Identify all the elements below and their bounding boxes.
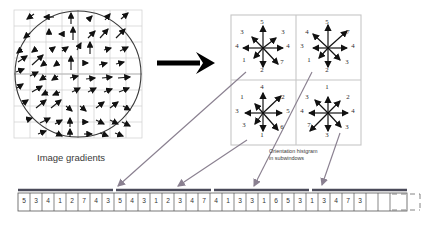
hist-bin-top-left-down: 2 <box>258 66 266 73</box>
subwindow-star-top-right <box>313 25 347 67</box>
strip-cell: 3 <box>318 197 330 204</box>
hist-bin-top-left-up: 5 <box>258 18 266 25</box>
hist-bin-bottom-right-down-left: 7 <box>305 121 313 128</box>
sift-descriptor-figure <box>0 0 422 226</box>
orientation-histogram-label: Orientation histgram in subwindows <box>269 148 318 162</box>
hist-bin-top-right-up-left: 4 <box>303 28 311 35</box>
subwindow-grid <box>231 15 361 145</box>
hist-bin-top-right-down: 2 <box>323 66 331 73</box>
hist-bin-bottom-left-down: 1 <box>258 131 266 138</box>
hist-bin-bottom-left-right: 5 <box>284 107 292 114</box>
strip-cell: 7 <box>198 197 210 204</box>
hist-bin-bottom-left-left: 3 <box>233 107 241 114</box>
hist-bin-bottom-left-up: 4 <box>258 83 266 90</box>
hist-bin-top-right-down-right: 3 <box>343 58 351 65</box>
hist-bin-top-right-right: 4 <box>349 42 357 49</box>
strip-cell: 3 <box>294 197 306 204</box>
strip-cell: 1 <box>54 197 66 204</box>
strip-cell: 3 <box>138 197 150 204</box>
strip-cell: 6 <box>270 197 282 204</box>
connector-1 <box>118 72 246 186</box>
hist-bin-bottom-left-down-left: 3 <box>240 121 248 128</box>
orientation-histogram-label-line2: in subwindows <box>269 155 318 162</box>
hist-bin-bottom-right-up: 1 <box>323 83 331 90</box>
strip-cell: 1 <box>258 197 270 204</box>
hist-bin-bottom-right-up-right: 2 <box>344 93 352 100</box>
connector-4 <box>322 133 340 185</box>
hist-bin-bottom-right-right: 4 <box>349 107 357 114</box>
hist-bin-bottom-left-down-right: 6 <box>278 123 286 130</box>
hist-bin-top-left-up-right: 3 <box>279 28 287 35</box>
strip-cell: 4 <box>330 197 342 204</box>
strip-cell: 1 <box>222 197 234 204</box>
orientation-histogram-panel <box>231 15 361 145</box>
orientation-histogram-label-line1: Orientation histgram <box>269 148 318 155</box>
strip-cell: 4 <box>42 197 54 204</box>
strip-cell: 4 <box>186 197 198 204</box>
strip-cell: 7 <box>78 197 90 204</box>
hist-bin-bottom-right-down-right: 3 <box>343 123 351 130</box>
strip-cell: 2 <box>66 197 78 204</box>
hist-bin-bottom-right-left: 4 <box>298 107 306 114</box>
strip-cell: 4 <box>90 197 102 204</box>
connector-arrows <box>118 72 340 186</box>
strip-cell: 2 <box>162 197 174 204</box>
strip-cell: 5 <box>114 197 126 204</box>
image-gradients-label: Image gradients <box>37 152 105 163</box>
strip-cell: 4 <box>210 197 222 204</box>
subwindow-star-bottom-left <box>245 93 282 131</box>
strip-cell: 3 <box>30 197 42 204</box>
hist-bin-bottom-right-up-left: 3 <box>303 93 311 100</box>
strip-cell: 7 <box>342 197 354 204</box>
hist-bin-top-left-up-left: 3 <box>238 28 246 35</box>
strip-cell: 5 <box>282 197 294 204</box>
strip-cell: 1 <box>150 197 162 204</box>
hist-bin-bottom-right-down: 3 <box>323 131 331 138</box>
hist-bin-bottom-left-up-left: 1 <box>238 93 246 100</box>
hist-bin-top-right-up: 5 <box>323 18 331 25</box>
hist-bin-top-left-down-left: 1 <box>240 56 248 63</box>
strip-cell: 5 <box>18 197 30 204</box>
strip-cell: 3 <box>174 197 186 204</box>
hist-bin-bottom-left-up-right: 2 <box>279 93 287 100</box>
subwindow-star-top-left <box>243 26 283 67</box>
strip-cell: 4 <box>126 197 138 204</box>
strip-cell: 3 <box>102 197 114 204</box>
strip-cell: 3 <box>246 197 258 204</box>
strip-cell: 3 <box>234 197 246 204</box>
connector-2 <box>178 140 247 186</box>
strip-cell: 1 <box>306 197 318 204</box>
hist-bin-top-left-down-right: 7 <box>278 58 286 65</box>
hist-bin-top-right-down-left: 1 <box>305 56 313 63</box>
hist-bin-top-right-up-right: 7 <box>344 28 352 35</box>
hist-bin-top-left-right: 4 <box>284 42 292 49</box>
transition-arrow-icon <box>157 52 215 74</box>
hist-bin-top-right-left: 3 <box>298 42 306 49</box>
image-gradients-panel <box>14 10 142 138</box>
hist-bin-top-left-left: 4 <box>233 42 241 49</box>
strip-cell: 3 <box>354 197 366 204</box>
